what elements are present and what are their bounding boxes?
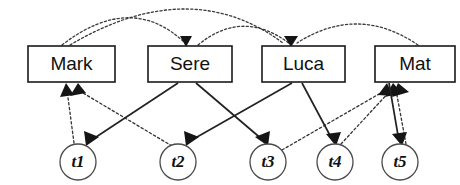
path-diagram-canvas: Mark Sere Luca Mat t1 t2 — [0, 0, 460, 185]
node-box-mat[interactable]: Mat — [375, 46, 455, 82]
edge-sere-to-t1 — [90, 83, 178, 141]
box-label-luca: Luca — [283, 53, 325, 74]
solid-edge-layer — [84, 83, 407, 146]
box-label-sere: Sere — [170, 53, 210, 74]
arc-sere-to-luca — [198, 26, 290, 45]
node-box-mark[interactable]: Mark — [28, 46, 115, 82]
node-circle-t5[interactable]: t5 — [382, 144, 418, 180]
node-circle-t1[interactable]: t1 — [60, 144, 96, 180]
circle-label-t3: t3 — [261, 152, 275, 171]
circle-label-t5: t5 — [393, 152, 407, 171]
arrowhead-into-t1 — [84, 131, 99, 146]
node-circle-t3[interactable]: t3 — [250, 144, 286, 180]
edge-t4-to-mat — [341, 90, 391, 144]
arc-mat-to-luca — [297, 24, 418, 45]
edge-t1-to-mark — [67, 90, 74, 143]
node-circle-t4[interactable]: t4 — [317, 144, 353, 180]
edge-luca-to-t4 — [302, 83, 333, 141]
box-layer: Mark Sere Luca Mat — [28, 46, 455, 82]
box-label-mat: Mat — [399, 53, 431, 74]
node-box-luca[interactable]: Luca — [262, 46, 345, 82]
arc-mark-to-sere — [62, 18, 186, 45]
node-box-sere[interactable]: Sere — [148, 46, 232, 82]
circle-label-t4: t4 — [328, 152, 341, 171]
node-circle-t2[interactable]: t2 — [160, 144, 196, 180]
box-label-mark: Mark — [50, 53, 93, 74]
circle-label-t2: t2 — [171, 152, 185, 171]
diagram-svg: Mark Sere Luca Mat t1 t2 — [0, 0, 460, 185]
circle-label-t1: t1 — [71, 152, 84, 171]
arrowhead-into-t2 — [184, 131, 199, 146]
circle-layer: t1 t2 t3 t4 t5 — [60, 144, 418, 180]
arc-layer — [62, 9, 418, 47]
